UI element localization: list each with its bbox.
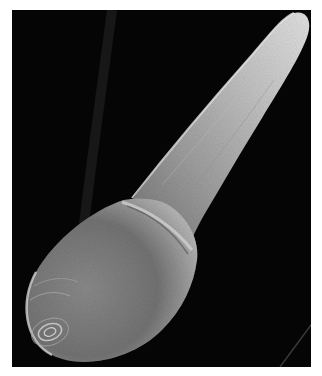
specimen-illustration <box>12 10 311 367</box>
micrograph-frame: SEM micrograph of elongated specimen <box>12 10 311 367</box>
